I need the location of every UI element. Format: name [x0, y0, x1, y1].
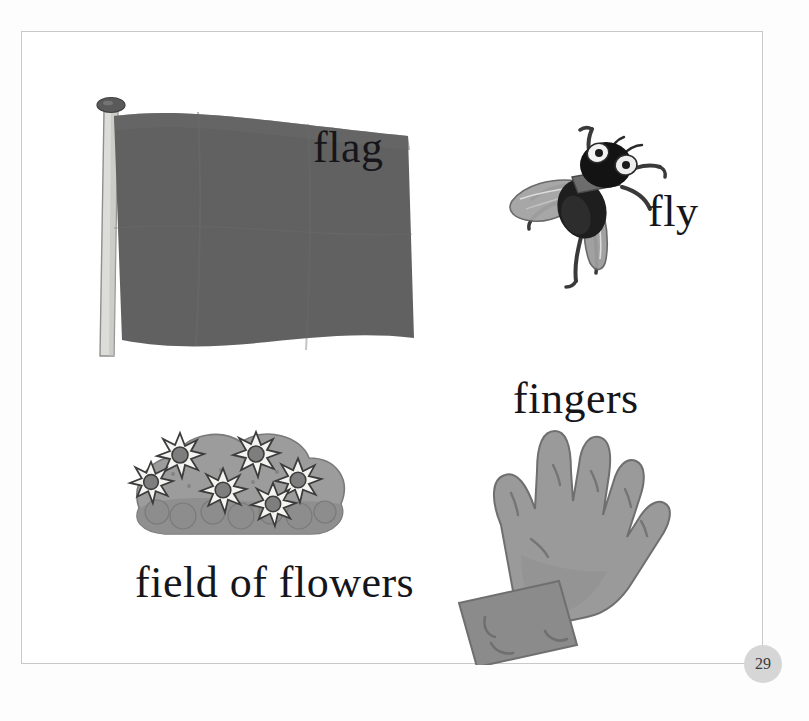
- hand-illustration: [455, 405, 680, 665]
- fly-body-group: [550, 140, 639, 245]
- label-field-of-flowers: field of flowers: [135, 557, 414, 608]
- fly-illustration: [500, 125, 670, 295]
- picture-dictionary-page: flag fly fingers field of flowers 29: [0, 0, 809, 721]
- page-number-badge: 29: [744, 645, 782, 683]
- page-number-text: 29: [755, 655, 771, 673]
- label-fly: fly: [648, 186, 698, 237]
- label-flag: flag: [313, 122, 383, 173]
- label-fingers: fingers: [513, 373, 639, 424]
- sleeve-group: [459, 581, 577, 665]
- flowers-illustration: [125, 412, 365, 557]
